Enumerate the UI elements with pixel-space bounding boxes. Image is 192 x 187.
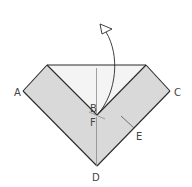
fold-arrow-head-icon	[100, 24, 112, 34]
label-D: D	[92, 172, 100, 183]
label-F: F	[90, 117, 96, 128]
label-E: E	[136, 131, 142, 142]
label-B: B	[90, 103, 97, 114]
label-C: C	[174, 87, 181, 98]
origami-diagram: A B C D E F	[0, 0, 192, 187]
label-A: A	[14, 87, 21, 98]
